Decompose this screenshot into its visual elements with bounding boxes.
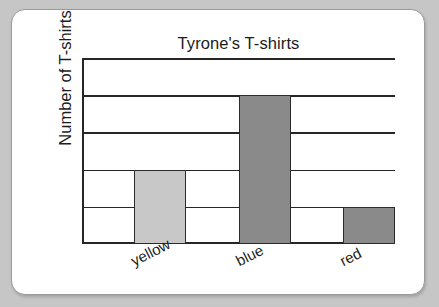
x-tick-label-red: red: [337, 244, 364, 269]
gridline: [82, 58, 395, 60]
y-axis-line: [82, 58, 84, 244]
bar-red: [343, 207, 395, 244]
bar-blue: [239, 95, 291, 244]
y-axis-label: Number of T-shirts: [55, 10, 74, 145]
y-axis-label-container: Number of T-shirts: [52, 0, 78, 171]
chart-title: Tyrone's T-shirts: [82, 34, 395, 53]
bar-yellow: [134, 170, 186, 244]
x-tick-label-blue: blue: [233, 241, 266, 269]
chart-card: Tyrone's T-shirts Number of T-shirts yel…: [11, 9, 425, 295]
plot-area: yellowbluered: [82, 58, 395, 244]
chart-screenshot: Tyrone's T-shirts Number of T-shirts yel…: [0, 0, 439, 307]
